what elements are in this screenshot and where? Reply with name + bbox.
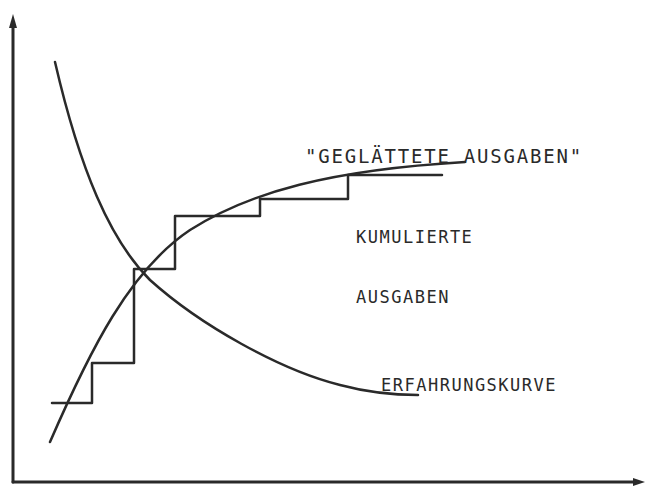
diagram-canvas [0,0,645,495]
label-smoothed-expenditure: "GEGLÄTTETE AUSGABEN" [305,146,583,166]
label-cumulative-line2: AUSGABEN [356,287,473,307]
label-cumulative-line1: KUMULIERTE [356,227,473,247]
x-axis-arrow-icon [633,478,645,486]
y-axis-arrow-icon [9,14,17,28]
label-cumulative-expenditure: KUMULIERTE AUSGABEN [356,187,473,327]
label-experience-curve: ERFAHRUNGSKURVE [381,375,557,395]
